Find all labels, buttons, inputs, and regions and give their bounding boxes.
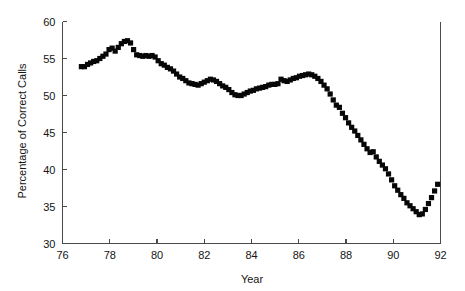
data-point-marker: [103, 51, 108, 56]
data-point-marker: [343, 115, 348, 120]
data-point-marker: [358, 137, 363, 142]
data-point-marker: [389, 177, 394, 182]
y-axis-tick-labels: 30354045505560: [43, 16, 55, 250]
data-point-marker: [325, 86, 330, 91]
y-tick-label: 55: [43, 53, 55, 65]
data-point-marker: [432, 188, 437, 193]
data-point-marker: [371, 149, 376, 154]
data-point-marker: [128, 40, 133, 45]
y-tick-label: 60: [43, 16, 55, 28]
data-point-marker: [386, 171, 391, 176]
y-tick-label: 35: [43, 201, 55, 213]
x-tick-label: 92: [434, 249, 446, 261]
data-point-marker: [346, 120, 351, 125]
data-point-marker: [383, 166, 388, 171]
y-axis-title: Percentage of Correct Calls: [16, 63, 28, 199]
x-tick-label: 78: [104, 249, 116, 261]
data-point-marker: [355, 133, 360, 138]
data-point-marker: [392, 183, 397, 188]
data-point-marker: [328, 91, 333, 96]
data-point-marker: [337, 105, 342, 110]
y-tick-label: 50: [43, 90, 55, 102]
data-point-marker: [423, 207, 428, 212]
line-chart-canvas: 767880828486889092 30354045505560 Year P…: [0, 0, 465, 291]
axis-ticks: [63, 22, 441, 244]
y-tick-label: 45: [43, 127, 55, 139]
x-tick-label: 88: [340, 249, 352, 261]
data-point-marker: [352, 128, 357, 133]
data-series-markers: [79, 38, 440, 217]
data-point-marker: [340, 111, 345, 116]
x-axis-title: Year: [241, 273, 264, 285]
x-tick-label: 90: [387, 249, 399, 261]
data-point-marker: [331, 97, 336, 102]
data-point-marker: [429, 195, 434, 200]
chart-figure: 767880828486889092 30354045505560 Year P…: [0, 0, 465, 291]
y-tick-label: 30: [43, 238, 55, 250]
data-point-marker: [361, 142, 366, 147]
data-point-marker: [435, 182, 440, 187]
data-point-marker: [401, 196, 406, 201]
x-tick-label: 82: [198, 249, 210, 261]
x-tick-label: 76: [56, 249, 68, 261]
data-point-marker: [395, 188, 400, 193]
x-tick-label: 84: [245, 249, 257, 261]
y-tick-label: 40: [43, 164, 55, 176]
x-axis-tick-labels: 767880828486889092: [56, 249, 446, 261]
axes: [63, 22, 441, 244]
data-point-marker: [426, 201, 431, 206]
x-tick-label: 80: [151, 249, 163, 261]
data-point-marker: [374, 154, 379, 159]
data-point-marker: [275, 81, 280, 86]
data-point-marker: [131, 47, 136, 52]
x-tick-label: 86: [293, 249, 305, 261]
data-point-marker: [420, 211, 425, 216]
